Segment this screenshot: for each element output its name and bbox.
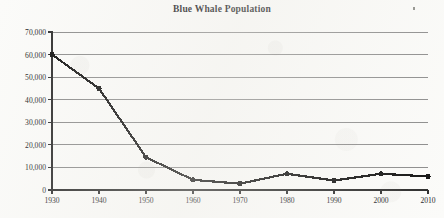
data-line-blue-whale-population bbox=[52, 55, 428, 184]
y-axis-tick-label: 20,000 bbox=[2, 140, 46, 149]
y-axis-tick-label: 40,000 bbox=[2, 95, 46, 104]
x-axis-tick-label: 2010 bbox=[420, 196, 435, 205]
data-point bbox=[190, 177, 195, 182]
x-axis-tick-label: 1980 bbox=[279, 196, 294, 205]
data-point bbox=[96, 86, 101, 91]
gridlines bbox=[52, 32, 428, 167]
y-axis-tick-label: 50,000 bbox=[2, 73, 46, 82]
line-chart bbox=[0, 0, 444, 218]
x-axis-tick-label: 2000 bbox=[373, 196, 388, 205]
x-axis-tick-label: 1970 bbox=[232, 196, 247, 205]
scan-speck bbox=[413, 7, 415, 10]
data-point bbox=[143, 155, 148, 160]
data-point bbox=[378, 171, 383, 176]
x-axis-tick-label: 1990 bbox=[326, 196, 341, 205]
data-point bbox=[331, 178, 336, 183]
data-point bbox=[284, 171, 289, 176]
y-axis-tick-label: 0 bbox=[2, 186, 46, 195]
data-point-markers bbox=[49, 52, 430, 186]
x-axis-tick-label: 1950 bbox=[138, 196, 153, 205]
x-axis-tick-label: 1930 bbox=[44, 196, 59, 205]
y-axis-tick-label: 60,000 bbox=[2, 50, 46, 59]
x-axis-tick-label: 1940 bbox=[91, 196, 106, 205]
y-axis-tick-label: 30,000 bbox=[2, 118, 46, 127]
chart-title: Blue Whale Population bbox=[0, 4, 444, 14]
y-axis-tick-label: 10,000 bbox=[2, 163, 46, 172]
data-point bbox=[49, 52, 54, 57]
data-point bbox=[425, 174, 430, 179]
data-point bbox=[237, 181, 242, 186]
x-axis-tick-label: 1960 bbox=[185, 196, 200, 205]
y-axis-tick-label: 70,000 bbox=[2, 28, 46, 37]
